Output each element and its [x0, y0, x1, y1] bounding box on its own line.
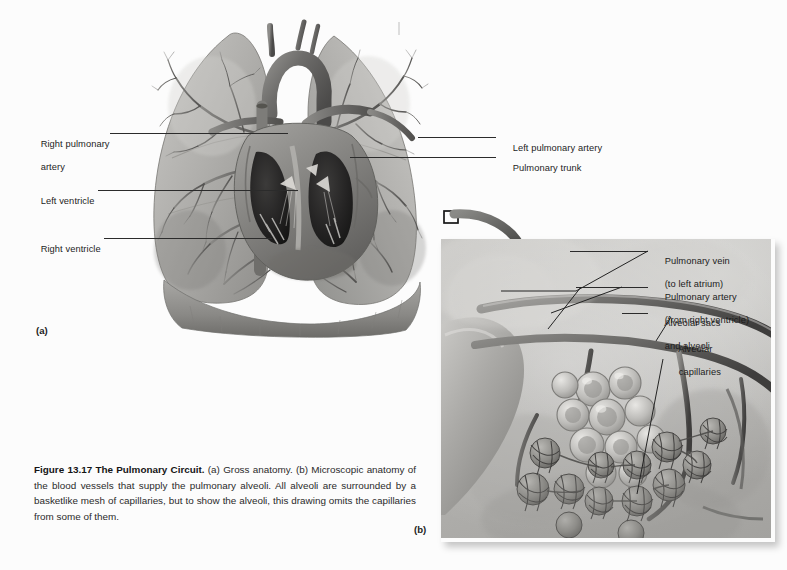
label-text: Alveolar	[678, 344, 712, 354]
label-text: Alveolar sacs	[664, 318, 720, 328]
label-alveolar-capillaries: Alveolar capillaries	[668, 333, 721, 390]
label-text: Left ventricle	[41, 196, 95, 206]
panel-letter-b: (b)	[414, 524, 426, 535]
caption-title: Figure 13.17 The Pulmonary Circuit.	[34, 464, 205, 475]
panel-letter-a: (a)	[36, 325, 48, 336]
label-text: artery	[41, 162, 65, 172]
label-text: Pulmonary vein	[665, 256, 730, 266]
leader-right-pulmonary-artery	[110, 133, 288, 134]
scan-artifact	[398, 22, 400, 35]
label-pulmonary-trunk: Pulmonary trunk	[502, 152, 582, 186]
leader-pulmonary-trunk	[350, 157, 496, 158]
gross-anatomy-illustration	[120, 18, 480, 338]
figure-page: Right pulmonary artery Left ventricle Ri…	[0, 0, 787, 570]
leader-right-ventricle	[104, 238, 272, 239]
label-text: Right ventricle	[41, 244, 101, 254]
label-right-ventricle: Right ventricle	[30, 233, 101, 267]
label-text: capillaries	[679, 367, 721, 377]
leader-left-pulmonary-artery	[418, 137, 496, 138]
label-right-pulmonary-artery: Right pulmonary artery	[30, 128, 110, 185]
label-text: Pulmonary artery	[665, 292, 737, 302]
label-text: Right pulmonary	[41, 139, 110, 149]
label-left-ventricle: Left ventricle	[30, 185, 94, 219]
leader-left-ventricle	[98, 190, 298, 191]
label-text: Pulmonary trunk	[513, 163, 582, 173]
figure-caption: Figure 13.17 The Pulmonary Circuit. (a) …	[34, 462, 416, 524]
